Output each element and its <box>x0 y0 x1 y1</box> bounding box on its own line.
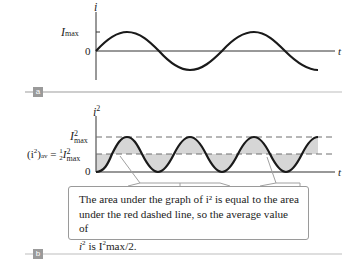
callout-line-1: The area under the graph of i² is equal … <box>79 192 300 207</box>
squared-superscript: 2 <box>96 104 100 113</box>
callout-max-half: max/2. <box>106 239 137 251</box>
imax-subscript: max <box>74 136 88 145</box>
panel-b-average-label: (i2)av = 12I2max <box>27 148 80 162</box>
panel-b-imax-squared-label: I2max <box>70 130 88 144</box>
panel-a-x-axis-label: t <box>338 46 341 57</box>
avg-imax-sup-sub: 2max <box>66 148 80 162</box>
panel-b-y-axis-label: i2 <box>93 105 100 118</box>
panel-a-imax-label: Imax <box>61 26 79 38</box>
callout-line-2: under the red dashed line, so the averag… <box>79 207 300 236</box>
callout-is-I: is I <box>86 239 103 251</box>
panel-b-x-axis-label: t <box>338 167 341 178</box>
imax-subscript: max <box>65 29 79 38</box>
avg-open: (i <box>27 148 34 160</box>
callout-line-3: i2 is I2max/2. <box>79 236 300 253</box>
panel-a-badge: a <box>33 87 43 97</box>
avg-equals: = <box>48 148 60 160</box>
imax-sup-sub: 2max <box>74 130 88 144</box>
callout-box: The area under the graph of i² is equal … <box>68 186 309 240</box>
panel-a-y-axis-label: i <box>94 1 97 13</box>
panel-b-badge: b <box>33 249 43 259</box>
avg-subscript: av <box>41 152 48 160</box>
panel-b-zero-label: 0 <box>85 166 91 177</box>
avg-imax-sub: max <box>66 154 80 163</box>
panel-a-zero-label: 0 <box>85 46 91 57</box>
